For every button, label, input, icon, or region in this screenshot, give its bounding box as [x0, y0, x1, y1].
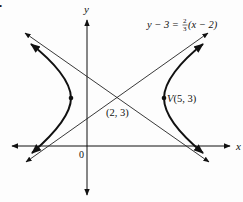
hyperbola-diagram: y x 0 (2, 3) V(5, 3) y − 3 = 2 3 (x − 2)…: [0, 0, 243, 202]
equation-lhs: y − 3 =: [146, 19, 179, 30]
hyperbola-left-branch: [31, 44, 71, 153]
center-label: (2, 3): [106, 107, 129, 119]
vertex-coords: (5, 3): [173, 93, 196, 105]
origin-label: 0: [79, 149, 84, 160]
vertex-right-point: [162, 96, 167, 101]
equation-rhs: (x − 2): [188, 19, 218, 31]
equation-fraction-numerator: 2: [183, 17, 187, 25]
equation-fraction-denominator: 3: [183, 25, 187, 33]
vertex-left-point: [69, 96, 74, 101]
y-axis-label: y: [83, 3, 89, 15]
list-bullet: •: [0, 1, 2, 11]
x-axis-label: x: [235, 140, 241, 152]
asymptote-equation-label: y − 3 = 2 3 (x − 2): [146, 17, 218, 33]
graph-canvas: y x 0 (2, 3) V(5, 3) y − 3 = 2 3 (x − 2)…: [0, 0, 243, 202]
vertex-label: V(5, 3): [167, 93, 197, 105]
